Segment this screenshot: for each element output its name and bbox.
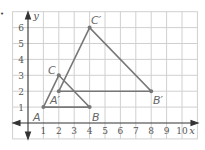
- svg-text:8: 8: [148, 126, 154, 136]
- svg-text:5: 5: [18, 39, 24, 49]
- svg-text:1: 1: [18, 103, 24, 113]
- svg-text:2: 2: [56, 126, 62, 136]
- svg-text:1: 1: [41, 126, 47, 136]
- svg-text:7: 7: [133, 126, 139, 136]
- vertex-b-prime: [149, 89, 153, 93]
- vertex-a: [41, 105, 45, 109]
- label-b: B: [92, 111, 100, 124]
- svg-text:5: 5: [102, 126, 108, 136]
- svg-text:x: x: [189, 125, 195, 136]
- svg-text:4: 4: [87, 126, 93, 136]
- svg-text:6: 6: [118, 126, 124, 136]
- svg-text:6: 6: [18, 23, 24, 33]
- y-axis-up-arrow-icon: [26, 12, 31, 19]
- vertex-c: [57, 73, 61, 77]
- svg-text:4: 4: [18, 55, 24, 65]
- label-b-prime: B′: [153, 94, 164, 107]
- coordinate-plane: 1 2 3 4 5 6 7 8 9 10 x 1 2 3 4 5 6 y A′ …: [0, 0, 205, 150]
- label-c: C: [48, 64, 56, 77]
- vertex-a-prime: [57, 89, 61, 93]
- x-tick-labels: 1 2 3 4 5 6 7 8 9 10 x: [41, 125, 196, 136]
- y-tick-labels: 1 2 3 4 5 6 y: [18, 10, 39, 113]
- svg-text:2: 2: [18, 87, 24, 97]
- label-a-prime: A′: [49, 94, 61, 107]
- label-c-prime: C′: [91, 14, 102, 27]
- y-axis-down-arrow-icon: [26, 132, 31, 139]
- svg-text:9: 9: [164, 126, 170, 136]
- x-axis-left-arrow-icon: [13, 121, 20, 126]
- svg-text:10: 10: [176, 126, 188, 136]
- svg-text:y: y: [32, 10, 39, 21]
- label-a: A: [32, 111, 41, 124]
- svg-text:3: 3: [18, 71, 24, 81]
- svg-text:3: 3: [71, 126, 77, 136]
- vertex-b: [88, 105, 92, 109]
